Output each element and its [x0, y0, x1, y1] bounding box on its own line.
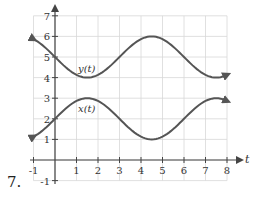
- x-axis-label: t: [245, 153, 250, 166]
- svg-text:4: 4: [44, 73, 50, 84]
- svg-text:-1: -1: [40, 176, 50, 187]
- parametric-chart: -1123456787654321-1 y(t) x(t) t: [0, 0, 261, 203]
- svg-text:6: 6: [181, 165, 187, 176]
- svg-text:4: 4: [138, 165, 144, 176]
- svg-text:1: 1: [73, 165, 79, 176]
- svg-text:6: 6: [44, 31, 50, 42]
- svg-text:1: 1: [44, 134, 50, 145]
- svg-text:3: 3: [44, 93, 50, 104]
- svg-text:-1: -1: [29, 165, 39, 176]
- svg-text:7: 7: [202, 165, 208, 176]
- grid: [34, 16, 228, 181]
- svg-text:5: 5: [159, 165, 165, 176]
- svg-text:8: 8: [224, 165, 230, 176]
- problem-number: 7.: [7, 173, 21, 191]
- curve-label-y: y(t): [77, 63, 96, 74]
- svg-text:5: 5: [44, 52, 50, 63]
- svg-text:7: 7: [44, 11, 50, 22]
- curve-label-x: x(t): [78, 103, 96, 114]
- svg-text:2: 2: [95, 165, 101, 176]
- svg-text:3: 3: [116, 165, 122, 176]
- svg-text:2: 2: [44, 114, 50, 125]
